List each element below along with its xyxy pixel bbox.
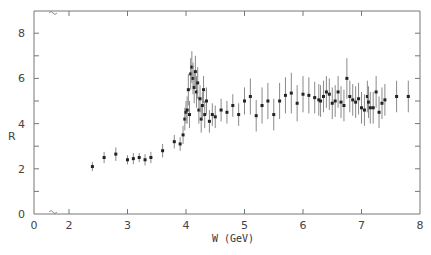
point-marker [132,157,135,160]
y-axis-title: R [8,130,16,143]
point-marker [296,102,299,105]
point-marker [337,90,340,93]
data-point [307,77,310,113]
data-point [114,147,117,161]
point-marker [205,100,208,103]
data-point [334,85,337,117]
point-marker [203,113,206,116]
point-marker [340,101,343,104]
point-marker [345,77,348,80]
data-point [357,83,360,115]
y-tick-label: 0 [18,208,25,221]
point-marker [290,92,293,95]
data-point [360,92,363,124]
point-marker [202,88,205,91]
axis-break-marks [49,12,57,214]
point-marker [249,95,252,98]
point-marker [199,97,202,100]
point-marker [357,97,360,100]
point-marker [380,102,383,105]
data-point [261,87,264,123]
r-ratio-chart: 02345678 02468 W (GeV) R [0,0,431,255]
point-marker [201,104,204,107]
data-point [337,76,340,108]
data-point [296,85,299,121]
point-marker [186,109,189,112]
point-marker [334,100,337,103]
data-point [149,152,152,163]
data-point [214,106,217,129]
data-point [319,85,322,117]
data-point [342,90,345,122]
x-tick-label: 0 [31,219,38,232]
data-point [354,86,357,118]
point-marker [331,102,334,105]
point-marker [187,88,190,91]
x-axis-title: W (GeV) [212,233,254,244]
point-marker [378,111,381,114]
data-point [225,101,228,124]
point-marker [103,156,106,159]
point-marker [325,90,328,93]
point-marker [237,113,240,116]
x-tick-label: 7 [358,219,365,232]
y-tick-label: 8 [18,27,25,40]
data-point [237,103,240,126]
data-point [161,144,164,158]
point-marker [302,93,305,96]
data-point [208,110,211,133]
data-point [103,152,106,163]
data-point [378,96,381,128]
point-marker [126,158,129,161]
data-point [375,76,378,108]
data-point [284,77,287,113]
point-marker [328,93,331,96]
data-point [372,92,375,124]
data-point [173,135,176,149]
x-tick-label: 5 [241,219,248,232]
data-point [272,99,275,131]
x-tick-label: 6 [300,219,307,232]
data-point [302,76,305,112]
point-marker [369,106,372,109]
point-marker [348,95,351,98]
data-point [91,162,94,171]
point-marker [307,94,310,97]
data-point [205,87,208,114]
point-marker [383,98,386,101]
point-marker [138,156,141,159]
point-marker [188,113,191,116]
data-point [132,153,135,164]
data-point [243,87,246,114]
data-point [383,84,386,116]
point-marker [214,115,217,118]
point-marker [114,153,117,156]
data-point [325,76,328,108]
data-point [182,126,185,144]
x-tick-label: 4 [183,219,190,232]
point-marker [220,109,223,112]
point-marker [375,90,378,93]
y-ticks: 02468 [18,27,420,221]
point-marker [319,100,322,103]
point-marker [272,113,275,116]
data-point [348,81,351,113]
data-point [138,153,141,162]
point-marker [231,104,234,107]
data-point [266,83,269,119]
data-point [340,86,343,118]
point-marker [351,98,354,101]
point-marker [255,114,258,117]
data-point [369,92,372,124]
data-point [278,83,281,119]
point-marker [182,133,185,136]
data-point [179,137,182,151]
y-tick-label: 2 [18,163,25,176]
data-point [255,100,258,132]
y-tick-label: 6 [18,72,25,85]
data-point [351,84,354,116]
point-marker [208,120,211,123]
x-tick-label: 2 [66,219,73,232]
point-marker [149,156,152,159]
point-marker [354,101,357,104]
